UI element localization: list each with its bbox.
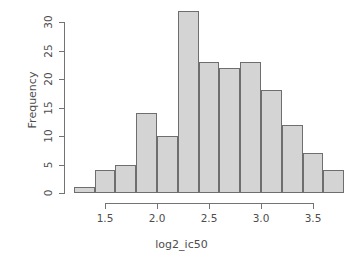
histogram-bar bbox=[282, 125, 303, 193]
x-tick-mark bbox=[157, 203, 158, 209]
histogram-bar bbox=[157, 136, 178, 193]
x-axis-title: log2_ic50 bbox=[0, 238, 363, 251]
histogram-bar bbox=[74, 187, 95, 193]
histogram-bar bbox=[261, 90, 282, 193]
histogram-bars bbox=[0, 0, 363, 266]
histogram-bar bbox=[115, 165, 136, 194]
histogram-bar bbox=[199, 62, 220, 193]
histogram-bar bbox=[136, 113, 157, 193]
x-tick-mark bbox=[261, 203, 262, 209]
x-tick-label: 1.5 bbox=[85, 212, 125, 224]
x-tick-label: 2.5 bbox=[189, 212, 229, 224]
x-tick-mark bbox=[105, 203, 106, 209]
x-tick-label: 3.5 bbox=[293, 212, 333, 224]
histogram-bar bbox=[219, 68, 240, 193]
x-tick-mark bbox=[313, 203, 314, 209]
histogram-bar bbox=[95, 170, 116, 193]
histogram-bar bbox=[240, 62, 261, 193]
x-tick-mark bbox=[209, 203, 210, 209]
x-tick-label: 3.0 bbox=[241, 212, 281, 224]
histogram-bar bbox=[303, 153, 324, 193]
x-tick-label: 2.0 bbox=[137, 212, 177, 224]
histogram-plot: Frequency 051015202530 1.52.02.53.03.5 l… bbox=[0, 0, 363, 266]
histogram-bar bbox=[178, 11, 199, 193]
histogram-bar bbox=[323, 170, 344, 193]
